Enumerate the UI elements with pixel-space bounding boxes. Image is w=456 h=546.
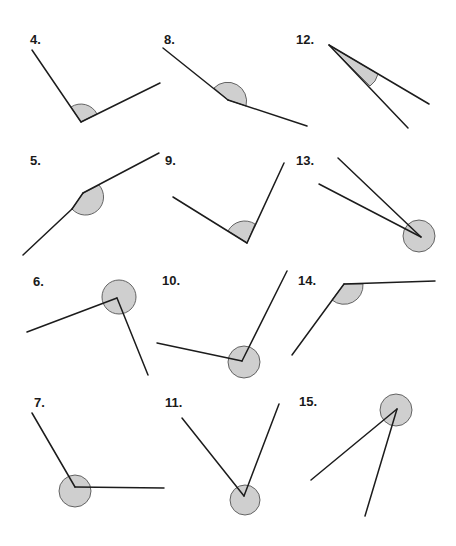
angle-12-arc <box>329 45 378 86</box>
angle-label-11: 11. <box>165 396 182 409</box>
angle-label-8: 8. <box>164 33 175 46</box>
angle-15 <box>311 394 412 516</box>
angle-label-9: 9. <box>165 154 176 167</box>
angle-10-arc <box>228 346 260 378</box>
angle-13 <box>319 158 435 252</box>
angle-6-arc <box>102 280 136 314</box>
angle-worksheet: 4. 8. 12. 5. 9. 13. 6. 10. 14. 7. 11. 15… <box>0 0 456 546</box>
angle-12 <box>329 45 429 128</box>
angle-label-10: 10. <box>162 274 180 287</box>
angle-9 <box>173 163 284 243</box>
angle-label-7: 7. <box>34 396 45 409</box>
angle-label-15: 15. <box>299 395 317 408</box>
angle-11 <box>182 404 279 515</box>
angle-label-13: 13. <box>296 154 314 167</box>
angle-14 <box>292 281 435 355</box>
angle-5-arc <box>72 185 104 215</box>
angle-label-12: 12. <box>296 33 314 46</box>
angles-diagram <box>0 0 456 546</box>
angle-6 <box>27 280 148 375</box>
angle-11-arc <box>230 485 260 515</box>
angle-label-4: 4. <box>30 33 41 46</box>
angle-label-5: 5. <box>30 154 41 167</box>
angle-7 <box>32 413 164 507</box>
angle-7-arc <box>59 475 91 507</box>
angle-8 <box>163 48 307 126</box>
angle-4 <box>32 50 160 122</box>
angle-8-arc <box>214 82 247 106</box>
angle-label-14: 14. <box>298 274 316 287</box>
angle-5 <box>23 153 159 255</box>
angle-label-6: 6. <box>33 275 44 288</box>
